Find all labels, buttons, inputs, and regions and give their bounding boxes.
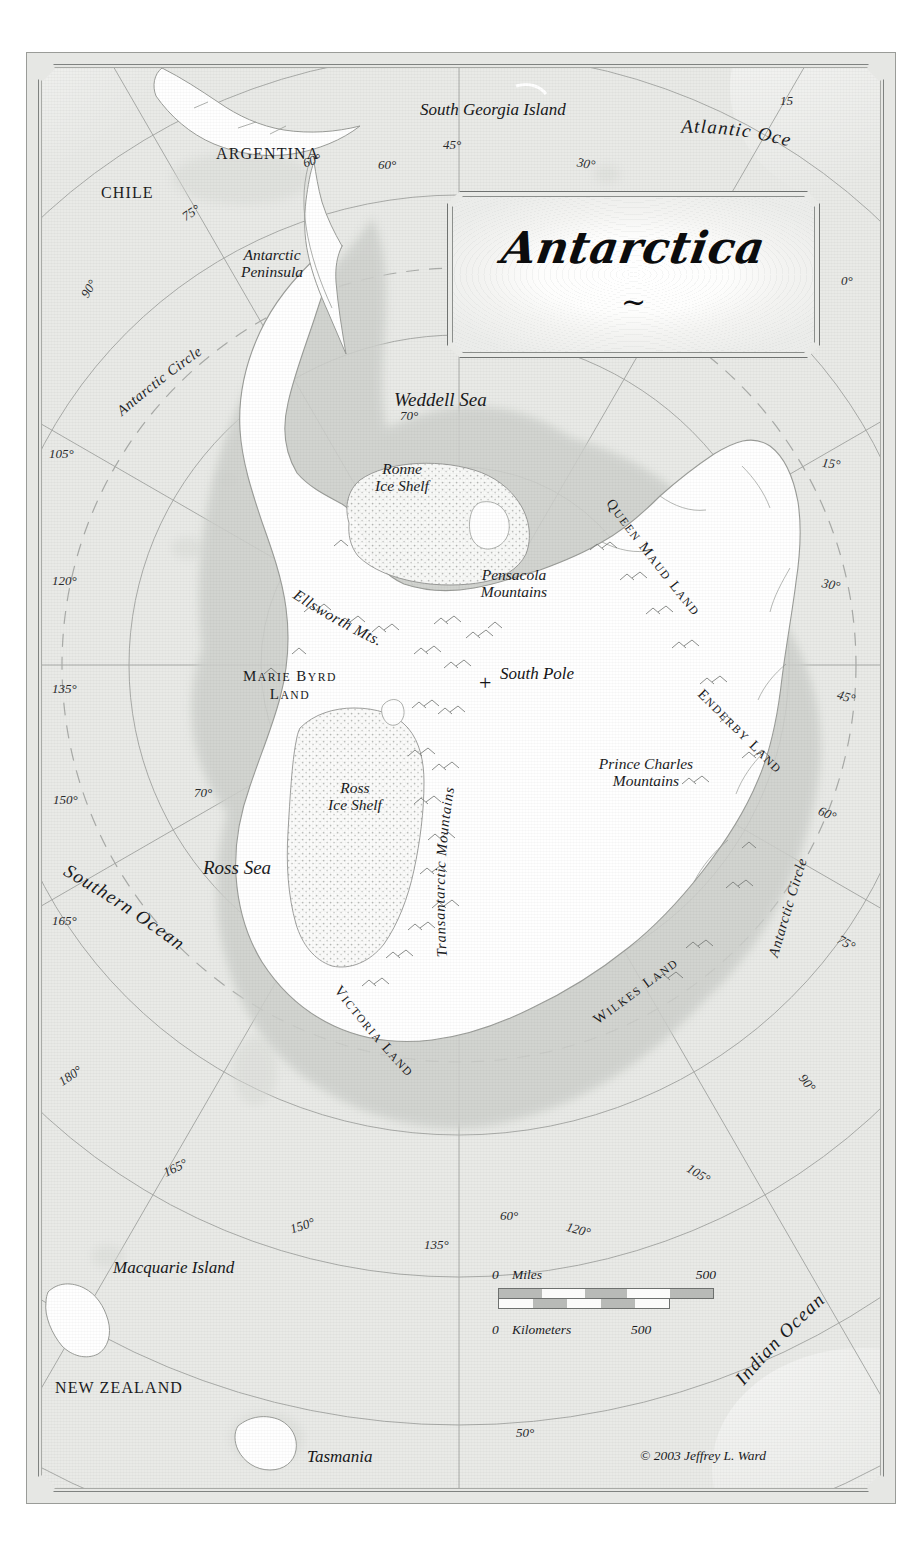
scale-seg — [670, 1289, 713, 1298]
scale-bar: 0 Miles 500 0 Kilometers 500 — [498, 1288, 714, 1309]
scale-km-max: 500 — [631, 1322, 651, 1338]
scale-km-zero: 0 — [492, 1322, 499, 1338]
antarctica-map-page: Atlantic Ocean Southern Ocean Indian Oce… — [0, 0, 922, 1563]
scale-seg — [585, 1289, 628, 1298]
scale-seg — [601, 1299, 635, 1308]
scale-miles-max: 500 — [696, 1267, 716, 1283]
scale-seg — [627, 1289, 670, 1298]
scale-km-label: Kilometers — [512, 1322, 571, 1338]
scale-seg — [499, 1299, 533, 1308]
scale-seg — [542, 1289, 585, 1298]
scale-km-track — [498, 1298, 670, 1309]
title-cartouche-inner — [452, 196, 815, 353]
scale-seg — [635, 1299, 669, 1308]
scale-seg — [567, 1299, 601, 1308]
scale-seg — [499, 1289, 542, 1298]
scale-seg — [533, 1299, 567, 1308]
scale-miles-zero: 0 — [492, 1267, 499, 1283]
map-title: Antarctica — [448, 222, 819, 273]
scale-miles-label: Miles — [512, 1267, 542, 1283]
title-flourish: ~ — [452, 296, 815, 308]
